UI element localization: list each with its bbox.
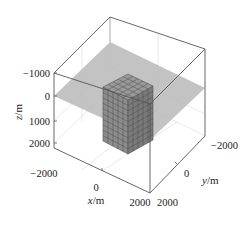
y-tick-labels: −2000 0 2000 xyxy=(157,140,238,208)
z-tick-label: 1000 xyxy=(29,116,50,127)
z-tick-labels: −1000 0 1000 2000 xyxy=(23,68,50,149)
x-tick-label: −2000 xyxy=(31,168,58,179)
y-tick-label: 0 xyxy=(184,168,189,179)
z-tick-label: 0 xyxy=(45,91,50,102)
y-tick-label: −2000 xyxy=(211,140,238,151)
y-axis-label: y/m xyxy=(201,174,219,186)
3d-plot: −1000 0 1000 2000 z/m −2000 0 2000 x/m −… xyxy=(0,0,251,225)
x-tick-label: 2000 xyxy=(130,197,151,208)
z-axis-label: z/m xyxy=(12,104,24,121)
z-tick-label: 2000 xyxy=(29,138,50,149)
mesh-block xyxy=(103,74,153,154)
x-tick-label: 0 xyxy=(93,182,98,193)
x-axis-label: x/m xyxy=(87,194,105,206)
z-tick-label: −1000 xyxy=(23,68,50,79)
y-tick-label: 2000 xyxy=(157,197,178,208)
